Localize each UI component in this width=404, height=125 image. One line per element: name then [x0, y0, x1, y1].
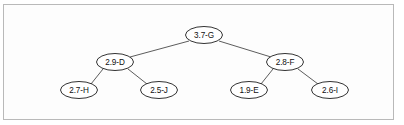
node-label-g: 3.7-G: [194, 31, 214, 40]
tree-node-g[interactable]: 3.7-G: [186, 27, 223, 44]
node-label-e: 1.9-E: [239, 86, 259, 95]
tree-node-d[interactable]: 2.9-D: [97, 54, 134, 71]
edge-D-J: [128, 69, 147, 84]
tree-node-f[interactable]: 2.8-F: [267, 54, 304, 71]
tree-node-group: 3.7-G2.9-D2.8-F2.7-H2.5-J1.9-E2.6-I: [61, 27, 349, 99]
tree-diagram: 3.7-G2.9-D2.8-F2.7-H2.5-J1.9-E2.6-I: [0, 0, 404, 125]
tree-node-h[interactable]: 2.7-H: [61, 82, 98, 99]
node-label-i: 2.6-I: [322, 86, 338, 95]
edge-F-I: [298, 69, 318, 84]
tree-node-i[interactable]: 2.6-I: [312, 82, 349, 99]
node-label-h: 2.7-H: [69, 86, 89, 95]
edge-D-H: [91, 69, 103, 84]
edge-G-D: [130, 41, 189, 57]
node-label-d: 2.9-D: [105, 58, 125, 67]
edge-F-E: [261, 69, 273, 84]
edge-G-F: [219, 41, 271, 57]
node-label-f: 2.8-F: [276, 58, 295, 67]
node-label-j: 2.5-J: [150, 86, 168, 95]
tree-node-e[interactable]: 1.9-E: [231, 82, 268, 99]
tree-node-j[interactable]: 2.5-J: [141, 82, 178, 99]
